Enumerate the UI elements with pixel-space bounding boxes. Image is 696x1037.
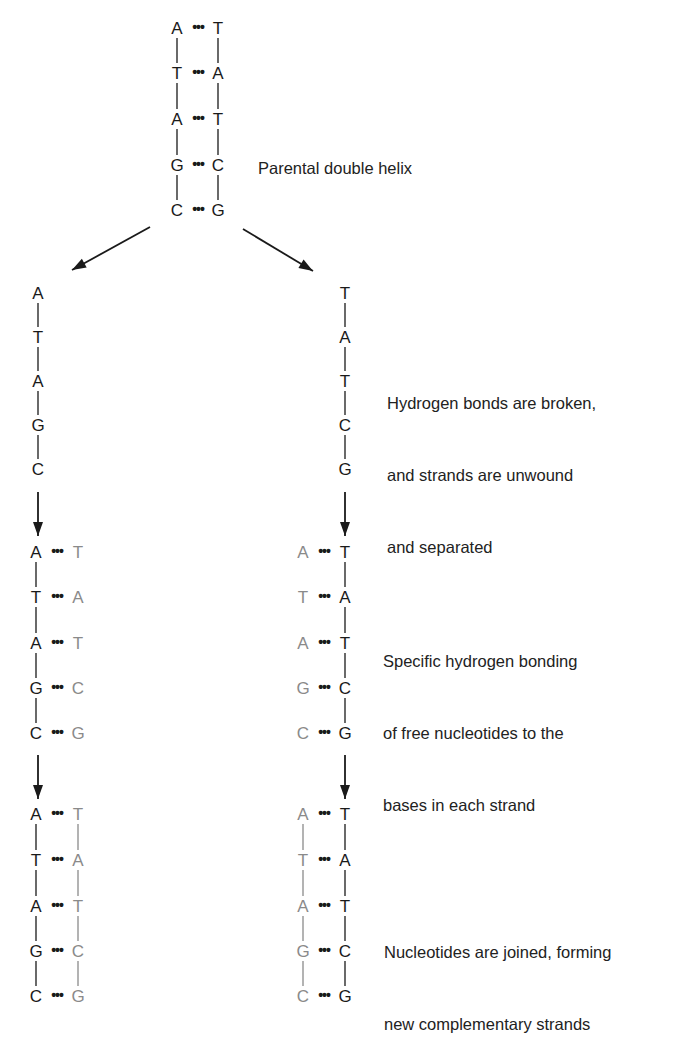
caption-line: Parental double helix xyxy=(258,156,412,180)
joined-left-new-base: C xyxy=(71,943,85,960)
caption-line: of free nucleotides to the xyxy=(383,721,577,745)
parental-right-base: A xyxy=(211,65,225,82)
down-arrow-left-2-head xyxy=(33,785,43,799)
joined-left-old-base: A xyxy=(29,898,43,915)
pairing-left-old-base: A xyxy=(29,544,43,561)
pairing-left-old-base: A xyxy=(29,635,43,652)
pairing-right-new-base: A xyxy=(296,635,310,652)
hydrogen-bond: ••• xyxy=(318,988,330,1002)
hydrogen-bond: ••• xyxy=(51,898,63,912)
pairing-left-new-base: G xyxy=(71,725,85,742)
joined-left-new-base: T xyxy=(71,806,85,823)
caption-separation: Hydrogen bonds are broken, and strands a… xyxy=(387,343,596,607)
parental-right-base: T xyxy=(211,111,225,128)
hydrogen-bond: ••• xyxy=(318,852,330,866)
hydrogen-bond: ••• xyxy=(51,943,63,957)
joined-right-old-base: T xyxy=(338,806,352,823)
hydrogen-bond: ••• xyxy=(318,725,330,739)
hydrogen-bond: ••• xyxy=(318,806,330,820)
separated-left-base: A xyxy=(31,285,45,302)
down-arrow-left-1-head xyxy=(33,522,43,536)
joined-right-old-base: A xyxy=(338,852,352,869)
separated-left-base: A xyxy=(31,373,45,390)
parental-left-base: T xyxy=(170,65,184,82)
separated-left-base: C xyxy=(31,461,45,478)
hydrogen-bond: ••• xyxy=(318,943,330,957)
joined-left-new-base: G xyxy=(71,988,85,1005)
hydrogen-bond: ••• xyxy=(192,20,204,34)
parental-right-base: G xyxy=(211,202,225,219)
pairing-left-old-base: G xyxy=(29,680,43,697)
separated-right-base: G xyxy=(338,461,352,478)
parental-right-base: T xyxy=(211,20,225,37)
separated-right-base: T xyxy=(338,285,352,302)
split-arrow-left-head xyxy=(72,259,87,270)
pairing-left-new-base: A xyxy=(71,589,85,606)
hydrogen-bond: ••• xyxy=(318,589,330,603)
separated-left-base: T xyxy=(31,329,45,346)
pairing-right-new-base: C xyxy=(296,725,310,742)
down-arrow-right-1-head xyxy=(340,522,350,536)
caption-line: and separated xyxy=(387,535,596,559)
pairing-left-old-base: C xyxy=(29,725,43,742)
joined-right-new-base: T xyxy=(296,852,310,869)
hydrogen-bond: ••• xyxy=(51,635,63,649)
hydrogen-bond: ••• xyxy=(318,635,330,649)
parental-right-base: C xyxy=(211,157,225,174)
separated-right-base: A xyxy=(338,329,352,346)
down-arrow-right-2-head xyxy=(340,785,350,799)
joined-left-old-base: C xyxy=(29,988,43,1005)
hydrogen-bond: ••• xyxy=(51,806,63,820)
hydrogen-bond: ••• xyxy=(192,157,204,171)
hydrogen-bond: ••• xyxy=(51,680,63,694)
hydrogen-bond: ••• xyxy=(51,725,63,739)
pairing-right-old-base: T xyxy=(338,544,352,561)
pairing-right-new-base: A xyxy=(296,544,310,561)
parental-left-base: G xyxy=(170,157,184,174)
joined-left-new-base: A xyxy=(71,852,85,869)
caption-line: Specific hydrogen bonding xyxy=(383,649,577,673)
hydrogen-bond: ••• xyxy=(51,544,63,558)
joined-right-old-base: T xyxy=(338,898,352,915)
pairing-right-old-base: G xyxy=(338,725,352,742)
caption-pairing: Specific hydrogen bonding of free nucleo… xyxy=(383,601,577,865)
hydrogen-bond: ••• xyxy=(318,898,330,912)
joined-right-old-base: C xyxy=(338,943,352,960)
pairing-left-old-base: T xyxy=(29,589,43,606)
split-arrow-right-head xyxy=(298,260,313,271)
joined-right-new-base: G xyxy=(296,943,310,960)
pairing-left-new-base: T xyxy=(71,635,85,652)
joined-left-new-base: T xyxy=(71,898,85,915)
pairing-left-new-base: C xyxy=(71,680,85,697)
caption-joining: Nucleotides are joined, forming new comp… xyxy=(384,892,611,1037)
separated-right-base: T xyxy=(338,373,352,390)
hydrogen-bond: ••• xyxy=(192,111,204,125)
hydrogen-bond: ••• xyxy=(51,988,63,1002)
separated-right-base: C xyxy=(338,417,352,434)
hydrogen-bond: ••• xyxy=(51,852,63,866)
parental-left-base: A xyxy=(170,20,184,37)
joined-left-old-base: G xyxy=(29,943,43,960)
hydrogen-bond: ••• xyxy=(51,589,63,603)
hydrogen-bond: ••• xyxy=(192,202,204,216)
hydrogen-bond: ••• xyxy=(192,65,204,79)
pairing-right-old-base: C xyxy=(338,680,352,697)
caption-line: bases in each strand xyxy=(383,793,577,817)
caption-line: Nucleotides are joined, forming xyxy=(384,940,611,964)
caption-line: and strands are unwound xyxy=(387,463,596,487)
separated-left-base: G xyxy=(31,417,45,434)
hydrogen-bond: ••• xyxy=(318,544,330,558)
joined-left-old-base: T xyxy=(29,852,43,869)
pairing-right-old-base: T xyxy=(338,635,352,652)
joined-right-new-base: C xyxy=(296,988,310,1005)
pairing-right-new-base: G xyxy=(296,680,310,697)
joined-left-old-base: A xyxy=(29,806,43,823)
parental-left-base: A xyxy=(170,111,184,128)
pairing-left-new-base: T xyxy=(71,544,85,561)
joined-right-new-base: A xyxy=(296,898,310,915)
caption-line: Hydrogen bonds are broken, xyxy=(387,391,596,415)
caption-parental: Parental double helix xyxy=(258,108,412,228)
joined-right-old-base: G xyxy=(338,988,352,1005)
joined-right-new-base: A xyxy=(296,806,310,823)
